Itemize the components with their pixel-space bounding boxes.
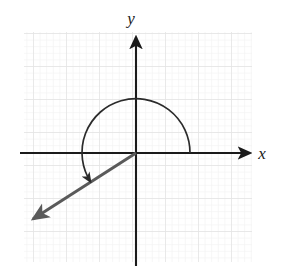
angle-diagram: y x bbox=[0, 0, 282, 276]
y-axis-label: y bbox=[125, 9, 135, 28]
x-axis-label: x bbox=[257, 144, 266, 163]
graph-grid bbox=[24, 32, 252, 262]
